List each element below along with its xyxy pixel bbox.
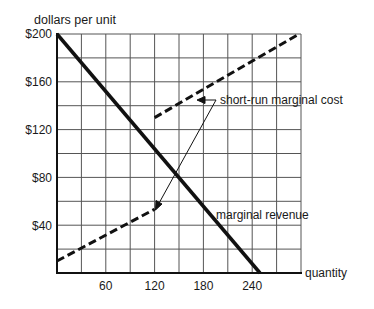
x-tick-120: 120 (140, 280, 170, 292)
marginal-cost-label: short-run marginal cost (220, 94, 343, 106)
x-tick-180: 180 (188, 280, 218, 292)
x-tick-240: 240 (237, 280, 267, 292)
y-tick-160: $160 (12, 76, 52, 88)
y-tick-40: $40 (12, 220, 52, 232)
marginal-revenue-label: marginal revenue (216, 209, 309, 221)
y-tick-200: $200 (12, 28, 52, 40)
chart-plot-area (0, 0, 374, 309)
grid (57, 34, 301, 273)
x-axis-label: quantity (305, 267, 347, 279)
x-tick-60: 60 (91, 280, 121, 292)
y-axis-label: dollars per unit (34, 14, 116, 27)
y-tick-120: $120 (12, 124, 52, 136)
y-tick-80: $80 (12, 172, 52, 184)
